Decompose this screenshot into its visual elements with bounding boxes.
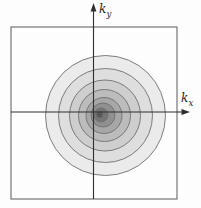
k-space-contour-figure: k y k x bbox=[0, 0, 201, 208]
contour-group bbox=[46, 56, 166, 176]
y-axis-arrowhead-icon bbox=[91, 3, 97, 12]
y-axis-label: k bbox=[99, 2, 106, 16]
x-axis-arrowhead-icon bbox=[182, 109, 191, 115]
y-axis-label-subscript: y bbox=[106, 9, 112, 19]
x-axis-label-subscript: x bbox=[189, 98, 194, 108]
x-axis-label: k bbox=[181, 91, 188, 105]
contour-circle bbox=[98, 113, 101, 116]
k-space-diagram: k y k x bbox=[0, 0, 201, 208]
